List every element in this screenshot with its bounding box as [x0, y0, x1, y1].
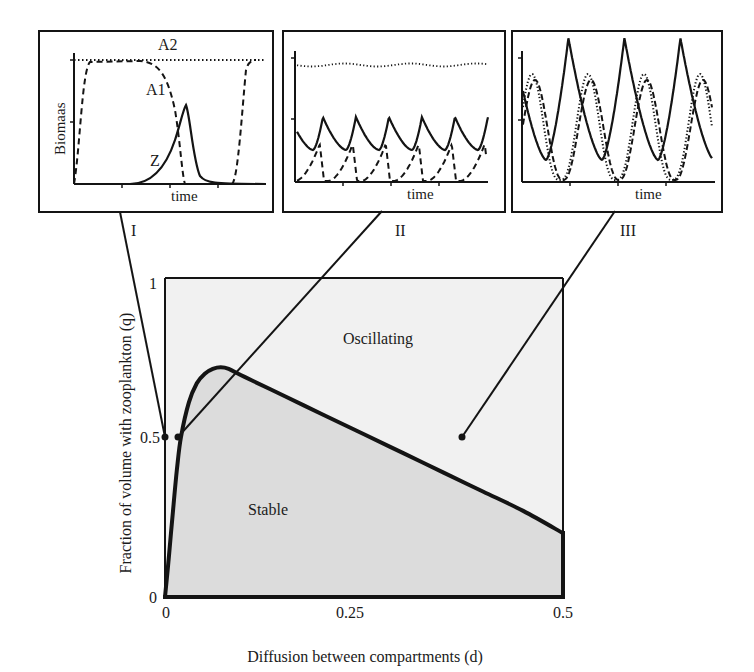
inset-y-axis-title: Biomaas — [52, 102, 68, 155]
series-label-A1: A1 — [146, 81, 166, 98]
region-label-stable: Stable — [248, 501, 288, 518]
panel-label-I: I — [131, 222, 136, 239]
y-axis-title: Fraction of volume with zooplankton (q) — [117, 313, 135, 574]
marker-point-I — [162, 434, 169, 441]
main-plot: Oscillating Stable 1 0.5 0 0 0.25 0.5 Di… — [117, 275, 573, 666]
region-label-oscillating: Oscillating — [343, 330, 413, 348]
inset-panel-I: A2 A1 Z Biomaas time — [39, 31, 273, 212]
x-axis-title: Diffusion between compartments (d) — [247, 648, 483, 666]
y-tick-label-0.5: 0.5 — [140, 429, 160, 446]
series-label-A2: A2 — [158, 36, 178, 53]
panel-label-III: III — [620, 222, 636, 239]
inset-x-axis-title: time — [407, 186, 434, 202]
marker-point-II — [175, 434, 182, 441]
inset-x-axis-title: time — [171, 188, 198, 204]
y-tick-label-1: 1 — [149, 275, 157, 292]
marker-point-III — [459, 434, 466, 441]
inset-x-axis-title: time — [635, 186, 662, 202]
y-tick-label-0: 0 — [149, 589, 157, 606]
panel-label-II: II — [395, 222, 406, 239]
x-tick-label-0.25: 0.25 — [336, 604, 364, 621]
series-label-Z: Z — [150, 152, 160, 169]
x-tick-label-0.5: 0.5 — [553, 604, 573, 621]
inset-panel-II: time — [283, 31, 505, 212]
figure: A2 A1 Z Biomaas time time time — [0, 0, 754, 672]
inset-panel-III: time — [512, 31, 722, 212]
figure-svg: A2 A1 Z Biomaas time time time — [0, 0, 754, 672]
inset-frame — [283, 31, 505, 212]
x-tick-label-0: 0 — [162, 604, 170, 621]
